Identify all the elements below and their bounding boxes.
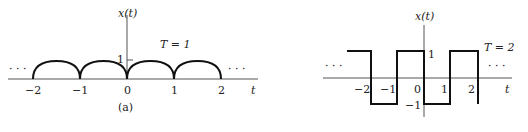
t-axis-label: t [251,84,256,97]
y-axis-label: x(t) [415,10,434,23]
x-tick-0: 0 [414,83,421,96]
x-tick-neg2: −2 [354,83,370,96]
caption: (a) [118,101,133,114]
y-tick-low-label: −1 [405,99,421,112]
period-label: T = 1 [160,38,191,51]
x-tick-1: 1 [441,83,448,96]
t-axis-label: t [505,83,510,96]
diagram-canvas: x(t) 1 T = 1 · · · · · · −2 −1 0 1 2 t (… [0,0,528,132]
ellipsis-right: · · · [488,60,505,73]
panel-a: x(t) 1 T = 1 · · · · · · −2 −1 0 1 2 t (… [8,7,258,114]
period-label: T = 2 [484,41,515,54]
x-tick-neg1: −1 [380,83,396,96]
x-tick-neg1: −1 [72,84,88,97]
x-tick-2: 2 [468,83,475,96]
y-tick-label: 1 [117,53,124,66]
ellipsis-left: · · · [325,60,342,73]
y-tick-high-label: 1 [428,48,435,61]
x-tick-0: 0 [124,84,131,97]
ellipsis-right: · · · [228,63,245,76]
x-tick-neg2: −2 [25,84,41,97]
x-tick-2: 2 [218,84,225,97]
x-tick-1: 1 [171,84,178,97]
y-axis-label: x(t) [118,7,137,20]
panel-b: x(t) 1 −1 T = 2 · · · · · · −2 −1 0 1 2 … [323,10,515,117]
ellipsis-left: · · · [9,63,26,76]
